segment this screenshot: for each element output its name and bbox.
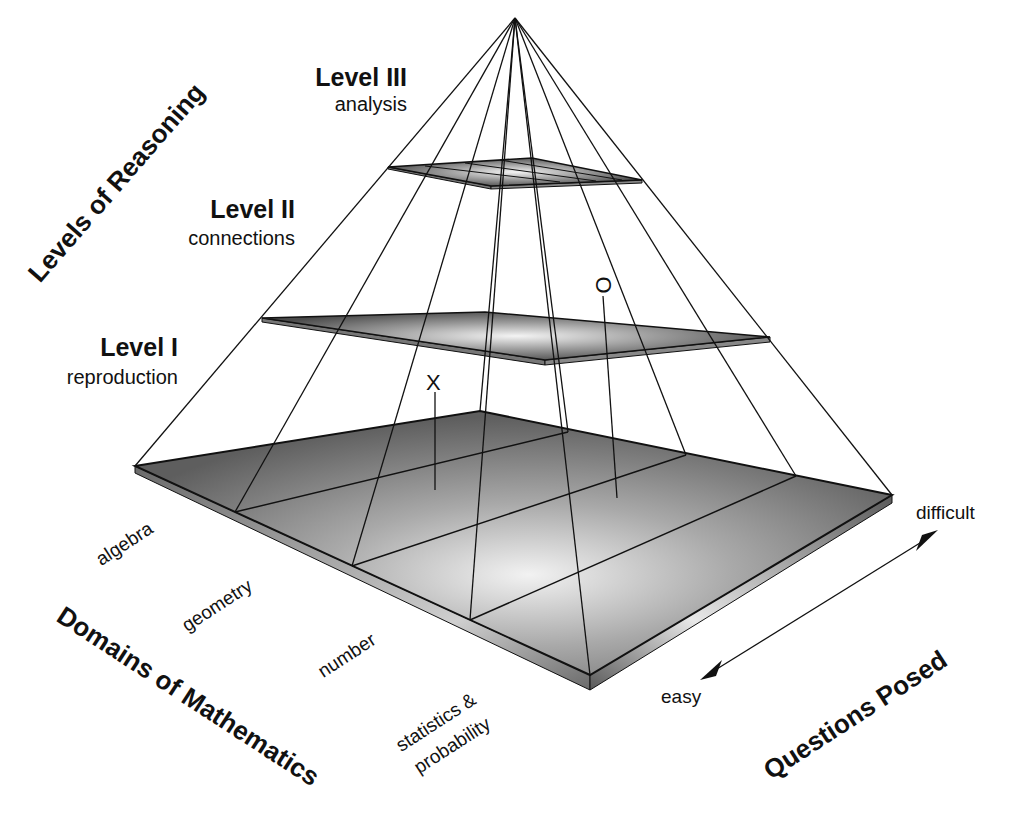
marker-x-label: X — [426, 370, 441, 396]
difficult-label: difficult — [916, 502, 975, 524]
level-1-subtitle: reproduction — [67, 366, 178, 388]
level-1-title: Level I — [100, 334, 178, 360]
level-3-subtitle: analysis — [335, 93, 407, 115]
marker-o-label: O — [590, 276, 616, 293]
level-2-subtitle: connections — [188, 227, 295, 249]
base-plane — [135, 411, 892, 690]
level-3-title: Level III — [315, 64, 407, 90]
level-2-plane — [262, 312, 770, 365]
easy-label: easy — [661, 686, 701, 708]
level-2-title: Level II — [210, 196, 295, 222]
